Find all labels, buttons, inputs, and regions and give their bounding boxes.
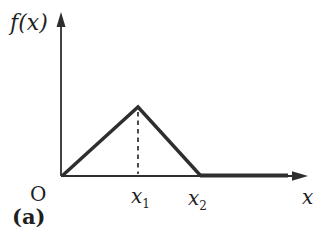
figure-panel: f(x) O x1 x2 x (a) [0,0,326,240]
y-axis-arrowhead-icon [57,12,66,27]
x-axis-arrowhead-icon [292,171,308,180]
plot-canvas [0,0,326,240]
x1-tick-base: x [131,184,142,208]
origin-label: O [30,184,46,204]
y-axis-label: f(x) [10,12,48,34]
x2-tick-base: x [188,186,199,210]
x1-tick-label: x1 [131,186,150,206]
x2-tick-label: x2 [188,188,207,208]
panel-label: (a) [12,206,45,227]
x2-tick-subscript: 2 [199,199,207,213]
function-curve [62,107,200,176]
x1-tick-subscript: 1 [142,197,150,211]
x-axis-label: x [302,187,313,207]
